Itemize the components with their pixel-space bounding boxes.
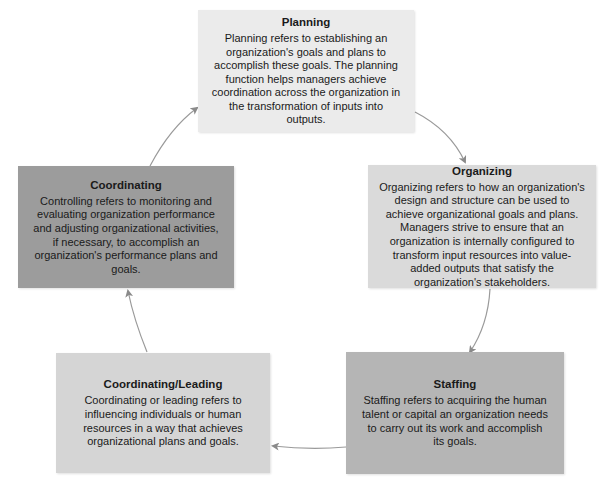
- node-coordinating-leading: Coordinating/Leading Coordinating or lea…: [56, 353, 270, 473]
- node-title: Staffing: [434, 377, 477, 391]
- arrow-staffing-to-coordinating-leading: [273, 446, 346, 448]
- arrow-coordinating-to-planning: [150, 108, 197, 166]
- arrow-organizing-to-staffing: [470, 289, 490, 352]
- node-description: Planning refers to establishing an organ…: [208, 32, 404, 127]
- node-title: Organizing: [452, 164, 512, 178]
- node-description: Controlling refers to monitoring and eva…: [32, 195, 220, 277]
- node-description: Staffing refers to acquiring the human t…: [362, 394, 548, 448]
- arrow-planning-to-organizing: [415, 112, 465, 162]
- node-title: Planning: [282, 15, 331, 29]
- node-organizing: Organizing Organizing refers to how an o…: [368, 165, 596, 288]
- node-staffing: Staffing Staffing refers to acquiring th…: [346, 352, 564, 474]
- node-description: Organizing refers to how an organization…: [378, 181, 586, 290]
- node-coordinating: Coordinating Controlling refers to monit…: [18, 166, 234, 288]
- node-planning: Planning Planning refers to establishing…: [198, 10, 414, 132]
- arrow-coordinating-leading-to-coordinating: [128, 291, 147, 352]
- node-description: Coordinating or leading refers to influe…: [78, 394, 248, 448]
- node-title: Coordinating: [90, 178, 162, 192]
- node-title: Coordinating/Leading: [104, 377, 223, 391]
